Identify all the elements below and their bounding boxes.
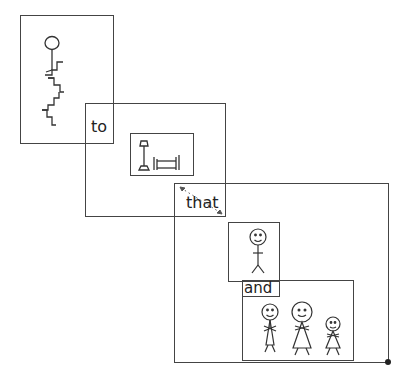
resize-handle[interactable] [385, 359, 391, 365]
family-icon [0, 0, 405, 382]
